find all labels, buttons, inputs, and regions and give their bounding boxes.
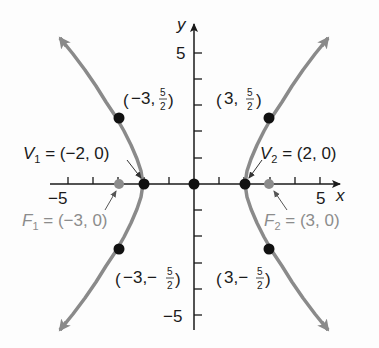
point-3-pos5half xyxy=(264,113,275,124)
f1-label: F1 = (−3, 0) xyxy=(22,211,108,232)
f2-pointer-arrow xyxy=(274,191,287,210)
point-label-3-pos5half: ( 3, 5 2 ) xyxy=(216,87,262,112)
point-label-neg3-neg5half: ( −3,− 5 2 ) xyxy=(115,266,181,291)
svg-text:5: 5 xyxy=(160,87,166,98)
right-branch-upper-arrow xyxy=(322,38,328,46)
svg-text:): ) xyxy=(256,91,262,110)
svg-text:−3,: −3, xyxy=(131,89,155,108)
hyperbola-diagram: y x 5 −5 −5 5 V1 = (−2, 0) V2 = (2, 0) F… xyxy=(0,0,379,348)
x-tick-label-5: 5 xyxy=(316,189,325,208)
focus-f2-point xyxy=(264,179,274,189)
x-tick-label-neg5: −5 xyxy=(48,189,67,208)
svg-text:(: ( xyxy=(115,270,121,289)
svg-text:2: 2 xyxy=(257,280,263,291)
svg-text:): ) xyxy=(265,270,271,289)
svg-text:): ) xyxy=(175,270,181,289)
y-tick-label-5: 5 xyxy=(176,44,185,63)
point-neg3-pos5half xyxy=(114,113,125,124)
svg-text:5: 5 xyxy=(167,266,173,277)
svg-text:2: 2 xyxy=(247,101,253,112)
point-label-neg3-pos5half: ( −3, 5 2 ) xyxy=(123,87,174,112)
svg-text:2: 2 xyxy=(167,280,173,291)
y-axis-label: y xyxy=(176,15,187,34)
svg-text:3,−: 3,− xyxy=(224,268,248,287)
right-branch-lower-arrow xyxy=(322,322,328,330)
y-tick-label-neg5: −5 xyxy=(163,307,182,326)
diagram-svg: y x 5 −5 −5 5 V1 = (−2, 0) V2 = (2, 0) F… xyxy=(0,0,379,348)
origin-point xyxy=(189,179,200,190)
svg-text:−3,−: −3,− xyxy=(123,268,157,287)
f1-pointer-arrow xyxy=(105,191,116,210)
f2-label: F2 = (3, 0) xyxy=(264,211,340,232)
svg-text:5: 5 xyxy=(257,266,263,277)
svg-text:2: 2 xyxy=(160,101,166,112)
svg-text:5: 5 xyxy=(247,87,253,98)
v2-label: V2 = (2, 0) xyxy=(260,144,337,165)
svg-text:(: ( xyxy=(123,91,129,110)
point-3-neg5half xyxy=(264,244,275,255)
focus-f1-point xyxy=(114,179,124,189)
svg-text:(: ( xyxy=(216,91,222,110)
svg-text:3,: 3, xyxy=(224,89,238,108)
vertex-v2-point xyxy=(240,179,251,190)
vertex-v1-point xyxy=(139,179,150,190)
point-neg3-neg5half xyxy=(114,244,125,255)
left-branch-upper-arrow xyxy=(60,38,66,46)
svg-text:(: ( xyxy=(216,270,222,289)
v1-label: V1 = (−2, 0) xyxy=(23,144,109,165)
point-label-3-neg5half: ( 3,− 5 2 ) xyxy=(216,266,271,291)
left-branch-lower-arrow xyxy=(60,322,66,330)
svg-text:): ) xyxy=(168,91,174,110)
x-axis-label: x xyxy=(335,186,345,205)
